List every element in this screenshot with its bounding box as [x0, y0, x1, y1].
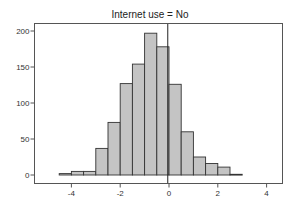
y-tick-label: 0	[25, 171, 30, 180]
histogram-bar	[84, 171, 96, 175]
histogram-bar	[145, 33, 157, 175]
histogram-bar	[59, 174, 71, 175]
chart-title: Internet use = No	[112, 9, 189, 20]
y-axis: 050100150200	[16, 27, 34, 180]
y-tick-label: 150	[16, 63, 30, 72]
histogram-bar	[132, 64, 144, 175]
y-tick-label: 50	[21, 135, 30, 144]
histogram-bar	[230, 174, 242, 175]
histogram-bar	[206, 164, 218, 176]
histogram-bar	[71, 171, 83, 175]
x-tick-label: -2	[117, 189, 125, 198]
histogram-chart: Internet use = No 050100150200 -4-2024	[0, 0, 295, 215]
histogram-bar	[218, 167, 230, 175]
y-tick-label: 100	[16, 99, 30, 108]
histogram-bar	[120, 84, 132, 175]
histogram-bar	[193, 157, 205, 175]
x-tick-label: -4	[68, 189, 76, 198]
x-tick-label: 4	[264, 189, 269, 198]
histogram-bar	[181, 132, 193, 175]
x-axis: -4-2024	[68, 184, 270, 198]
histogram-bar	[108, 122, 120, 175]
y-tick-label: 200	[16, 27, 30, 36]
x-tick-label: 0	[167, 189, 172, 198]
histogram-bar	[96, 148, 108, 175]
x-tick-label: 2	[216, 189, 221, 198]
histogram-bar	[157, 47, 169, 175]
histogram-bar	[169, 84, 181, 175]
histogram-bars	[59, 33, 242, 175]
